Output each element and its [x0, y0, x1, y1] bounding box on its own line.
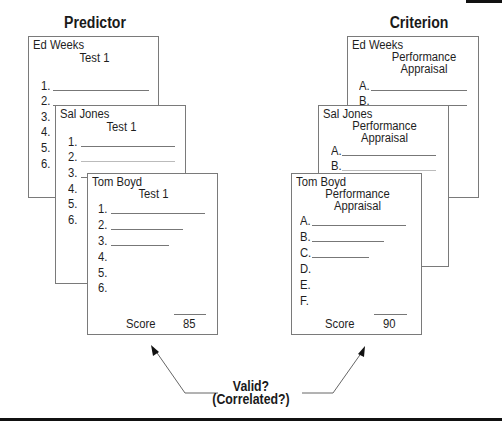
correlation-arrows	[0, 0, 502, 428]
arrow-to-criterion	[302, 352, 362, 393]
bottom-rule	[0, 418, 502, 421]
correlated-label: (Correlated?)	[207, 393, 295, 406]
validity-question: Valid? (Correlated?)	[207, 380, 295, 406]
